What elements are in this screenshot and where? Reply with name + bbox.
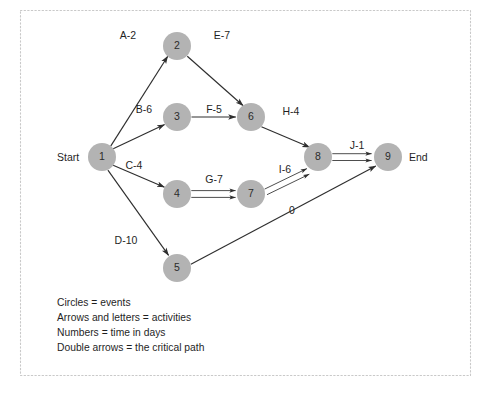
node-4-label: 4 bbox=[174, 187, 180, 199]
edge-label-J: J-1 bbox=[350, 139, 365, 151]
node-3[interactable]: 3 bbox=[163, 103, 191, 131]
node-8[interactable]: 8 bbox=[304, 143, 332, 171]
edge-label-H: H-4 bbox=[283, 105, 300, 117]
edge-label-C: C-4 bbox=[126, 159, 143, 171]
node-2[interactable]: 2 bbox=[163, 32, 191, 60]
legend-line-4: Double arrows = the critical path bbox=[57, 342, 205, 353]
node-5[interactable]: 5 bbox=[163, 254, 191, 282]
network-diagram: 1 2 3 4 5 6 7 bbox=[0, 0, 493, 393]
edge-label-E: E-7 bbox=[214, 29, 231, 41]
edge-label-D: D-10 bbox=[115, 234, 138, 246]
node-6-label: 6 bbox=[248, 110, 254, 122]
legend: Circles = events Arrows and letters = ac… bbox=[57, 297, 205, 353]
start-label: Start bbox=[57, 151, 79, 163]
node-7[interactable]: 7 bbox=[237, 180, 265, 208]
node-6[interactable]: 6 bbox=[237, 103, 265, 131]
edge-label-dummy: 0 bbox=[289, 204, 295, 216]
node-9-label: 9 bbox=[385, 150, 391, 162]
edge-A-1-to-2 bbox=[111, 56, 168, 146]
node-5-label: 5 bbox=[174, 261, 180, 273]
edge-label-G: G-7 bbox=[205, 173, 223, 185]
node-1-label: 1 bbox=[99, 150, 105, 162]
edge-H-6-to-8 bbox=[261, 127, 309, 148]
node-2-label: 2 bbox=[174, 39, 180, 51]
edge-label-F: F-5 bbox=[206, 103, 222, 115]
legend-line-3: Numbers = time in days bbox=[57, 327, 165, 338]
node-4[interactable]: 4 bbox=[163, 180, 191, 208]
edge-layer bbox=[108, 56, 376, 264]
edge-E-2-to-6 bbox=[187, 56, 243, 105]
end-label: End bbox=[409, 151, 428, 163]
node-7-label: 7 bbox=[248, 187, 254, 199]
legend-line-1: Circles = events bbox=[57, 297, 131, 308]
node-9[interactable]: 9 bbox=[374, 143, 402, 171]
node-8-label: 8 bbox=[315, 150, 321, 162]
legend-line-2: Arrows and letters = activities bbox=[57, 312, 191, 323]
edge-G-4-to-7 bbox=[191, 191, 235, 198]
node-3-label: 3 bbox=[174, 110, 180, 122]
node-1[interactable]: 1 bbox=[88, 143, 116, 171]
network-diagram-canvas: 1 2 3 4 5 6 7 bbox=[0, 0, 493, 393]
edge-label-I: I-6 bbox=[279, 163, 291, 175]
edge-label-A: A-2 bbox=[120, 29, 137, 41]
edge-B-1-to-3 bbox=[113, 125, 164, 149]
edge-label-B: B-6 bbox=[136, 103, 153, 115]
edge-label-layer: A-2 B-6 C-4 D-10 E-7 F-5 G-7 H-4 I-6 J-1… bbox=[115, 29, 365, 246]
edge-J-8-to-9 bbox=[332, 154, 371, 161]
